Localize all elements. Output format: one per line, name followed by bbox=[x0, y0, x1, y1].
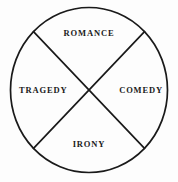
quadrant-label-tragedy: TRAGEDY bbox=[19, 86, 67, 95]
quadrant-label-romance: ROMANCE bbox=[0, 29, 178, 38]
quadrant-label-comedy: COMEDY bbox=[119, 86, 163, 95]
genre-wheel-diagram: ROMANCE TRAGEDY COMEDY IRONY bbox=[0, 0, 178, 182]
quadrant-label-irony: IRONY bbox=[0, 140, 178, 149]
